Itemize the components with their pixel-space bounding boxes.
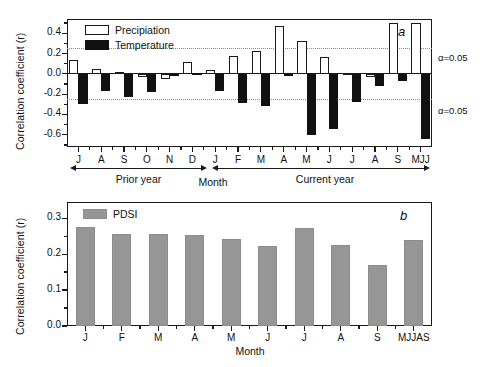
- x-tick-mark: [329, 147, 330, 152]
- x-tick-mark: [123, 147, 124, 152]
- y-tick-label: 0.2: [26, 47, 61, 58]
- y-tick-mark: [62, 289, 67, 290]
- precipitation-bar: [115, 72, 124, 74]
- y-tick-minor: [64, 307, 67, 308]
- precipitation-bar: [411, 23, 420, 74]
- x-tick-label: MJJAS: [388, 332, 440, 343]
- pdsi-bar: [112, 234, 131, 326]
- x-tick-minor: [272, 147, 273, 150]
- x-tick-mark: [231, 326, 232, 331]
- panel-a-legend-item-precipitation: Precipiation: [85, 24, 170, 36]
- panel-a-letter: a: [398, 24, 405, 39]
- panel-a: Correlation coefficient (r) 0.40.20.0-0.…: [0, 0, 497, 190]
- temperature-bar: [284, 74, 293, 76]
- precipitation-bar: [389, 23, 398, 74]
- y-tick-label: -0.6: [26, 128, 61, 139]
- precipitation-bar: [183, 62, 192, 74]
- x-tick-mark: [121, 326, 122, 331]
- temperature-bar: [78, 74, 87, 104]
- precipitation-bar: [92, 69, 101, 74]
- temperature-swatch-icon: [85, 40, 109, 50]
- x-tick-mark: [101, 147, 102, 152]
- y-tick-minor: [64, 104, 67, 105]
- pdsi-bar: [331, 245, 350, 326]
- significance-line: [67, 99, 432, 100]
- x-tick-mark: [260, 147, 261, 152]
- x-tick-minor: [363, 147, 364, 150]
- x-tick-mark: [85, 326, 86, 331]
- y-tick-label: -0.2: [26, 87, 61, 98]
- y-tick-minor: [64, 43, 67, 44]
- y-tick-label: 0.1: [29, 283, 61, 294]
- y-tick-label: 0.0: [29, 319, 61, 330]
- x-tick-mark: [352, 147, 353, 152]
- y-tick-minor: [64, 236, 67, 237]
- precipitation-bar: [161, 74, 170, 80]
- precipitation-bar: [252, 51, 261, 74]
- y-tick-minor: [64, 124, 67, 125]
- y-tick-mark: [62, 114, 67, 115]
- precipitation-bar: [275, 26, 284, 74]
- y-tick-mark: [62, 53, 67, 54]
- temperature-bar: [329, 74, 338, 129]
- panel-a-legend-label-precipitation: Precipiation: [115, 24, 170, 36]
- y-tick-mark: [62, 325, 67, 326]
- x-tick-minor: [285, 326, 286, 329]
- panel-a-alpha-label-lower: α=0.05: [438, 105, 468, 116]
- x-tick-minor: [409, 147, 410, 150]
- panel-b-y-axis-label: Correlation coefficient (r): [14, 218, 26, 335]
- pdsi-bar: [295, 228, 314, 326]
- panel-a-x-axis-label: Month: [183, 176, 243, 188]
- x-tick-mark: [194, 326, 195, 331]
- temperature-bar: [307, 74, 316, 135]
- temperature-bar: [101, 74, 110, 91]
- y-tick-mark: [62, 33, 67, 34]
- y-tick-label: -0.4: [26, 107, 61, 118]
- y-tick-minor: [64, 271, 67, 272]
- panel-a-alpha-label-upper: α=0.05: [438, 52, 468, 63]
- precipitation-bar: [366, 74, 375, 77]
- x-tick-minor: [203, 147, 204, 150]
- x-tick-minor: [135, 147, 136, 150]
- arrow-right-icon: [201, 165, 207, 171]
- x-tick-minor: [158, 147, 159, 150]
- y-tick-label: 0.4: [26, 26, 61, 37]
- x-tick-mark: [158, 326, 159, 331]
- x-tick-minor: [295, 147, 296, 150]
- x-tick-minor: [180, 147, 181, 150]
- x-tick-minor: [249, 147, 250, 150]
- x-tick-mark: [267, 326, 268, 331]
- panel-b: Correlation coefficient (r) 0.00.10.20.3…: [0, 190, 497, 367]
- temperature-bar: [421, 74, 430, 139]
- y-tick-mark: [62, 94, 67, 95]
- x-tick-mark: [237, 147, 238, 152]
- y-tick-label: 0.3: [29, 211, 61, 222]
- arrow-right-icon: [424, 165, 430, 171]
- precipitation-swatch-icon: [85, 25, 109, 35]
- temperature-bar: [352, 74, 361, 102]
- y-tick-mark: [62, 254, 67, 255]
- panel-b-legend-label-pdsi: PDSI: [113, 208, 138, 220]
- x-tick-mark: [374, 147, 375, 152]
- temperature-bar: [261, 74, 270, 106]
- temperature-bar: [124, 74, 133, 97]
- y-tick-label: 0.2: [29, 247, 61, 258]
- pdsi-bar: [76, 227, 95, 326]
- precipitation-bar: [69, 60, 78, 74]
- x-tick-mark: [283, 147, 284, 152]
- x-tick-minor: [176, 326, 177, 329]
- precipitation-bar: [297, 41, 306, 74]
- pdsi-bar: [258, 246, 277, 326]
- panel-b-letter: b: [400, 208, 407, 223]
- y-tick-minor: [64, 63, 67, 64]
- x-tick-minor: [89, 147, 90, 150]
- precipitation-bar: [229, 56, 238, 74]
- span-line: [76, 168, 201, 169]
- x-tick-minor: [249, 326, 250, 329]
- x-tick-minor: [103, 326, 104, 329]
- x-tick-mark: [215, 147, 216, 152]
- temperature-bar: [398, 74, 407, 82]
- pdsi-bar: [404, 240, 423, 326]
- precipitation-bar: [343, 73, 352, 75]
- temperature-bar: [170, 74, 179, 76]
